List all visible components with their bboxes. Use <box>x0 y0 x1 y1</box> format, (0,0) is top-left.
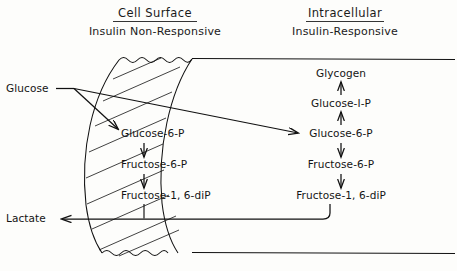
lactate-output: Lactate <box>6 204 330 224</box>
arrow-glucose-to-intracellular-glucose-6-p <box>74 89 298 134</box>
intracellular-step-fructose-6-p: Fructose-6-P <box>308 158 374 170</box>
membrane-left-edge <box>84 60 119 253</box>
intracellular-pathway: Glycogen Glucose-I-P Glucose-6-P Fructos… <box>296 67 386 201</box>
surface-step-glucose-6-p: Glucose-6-P <box>121 127 185 139</box>
surface-pathway: Glucose-6-P Fructose-6-P Fructose-1, 6-d… <box>121 127 211 219</box>
membrane-band <box>84 58 192 257</box>
surface-step-fructose-6-p: Fructose-6-P <box>121 158 187 170</box>
header-right-subtitle: Insulin-Responsive <box>292 25 398 38</box>
header-right-title: Intracellular <box>308 6 382 20</box>
header-left: Cell Surface Insulin Non-Responsive <box>89 6 221 38</box>
header-right: Intracellular Insulin-Responsive <box>292 6 398 38</box>
lactate-label: Lactate <box>6 212 46 224</box>
glucose-node: Glucose <box>6 82 298 133</box>
membrane-hatch <box>95 92 172 126</box>
cell-boundary <box>192 59 455 254</box>
arrow-glucose-to-surface-glucose-6-p <box>74 89 118 130</box>
surface-step-fructose-1-6-dip: Fructose-1, 6-diP <box>121 189 211 201</box>
intracellular-step-glycogen: Glycogen <box>316 67 366 79</box>
membrane-right-edge <box>161 59 192 253</box>
arrow-fdp-to-lactate <box>62 204 330 219</box>
intracellular-step-glucose-1-p: Glucose-I-P <box>311 97 371 109</box>
intracellular-step-fructose-1-6-dip: Fructose-1, 6-diP <box>296 189 386 201</box>
cell-top-boundary <box>192 59 455 60</box>
membrane-hatch <box>113 58 161 79</box>
header-left-title: Cell Surface <box>118 6 192 20</box>
diagram-canvas: Cell Surface Insulin Non-Responsive Intr… <box>0 0 457 271</box>
glucose-label: Glucose <box>6 82 49 94</box>
membrane-bottom-cap <box>102 251 168 256</box>
membrane-hatch <box>103 67 180 101</box>
intracellular-step-glucose-6-p: Glucose-6-P <box>309 127 373 139</box>
cell-bottom-boundary <box>192 253 455 254</box>
figure-container: Cell Surface Insulin Non-Responsive Intr… <box>0 0 457 271</box>
header-left-subtitle: Insulin Non-Responsive <box>89 25 221 38</box>
